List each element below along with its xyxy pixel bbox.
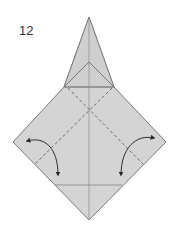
origami-diagram bbox=[0, 0, 178, 241]
